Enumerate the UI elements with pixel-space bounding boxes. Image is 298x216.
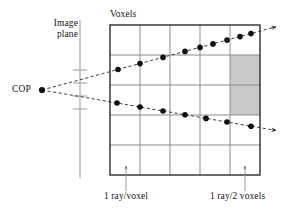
- one-ray-per-two-voxels-label: 1 ray/2 voxels: [210, 191, 265, 202]
- one-ray-per-voxel-label: 1 ray/voxel: [104, 191, 148, 202]
- diagram-canvas: [0, 0, 298, 216]
- voxels-label: Voxels: [110, 9, 136, 20]
- cop-label: COP: [12, 84, 31, 95]
- image-plane-label-line2: plane: [54, 29, 78, 40]
- image-plane-label-line1: Image: [54, 18, 78, 29]
- ray-casting-diagram: Image plane COP Voxels 1 ray/voxel 1 ray…: [0, 0, 298, 216]
- image-plane-label: Image plane: [54, 18, 78, 40]
- callout-arrows: [126, 166, 245, 191]
- cop-point: [39, 87, 45, 93]
